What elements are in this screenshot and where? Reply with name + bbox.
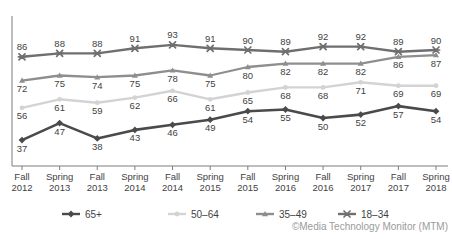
data-value-label: 91 [205, 33, 216, 44]
chart-legend: 65+50–6435–4918–34 [62, 209, 389, 220]
data-value-label: 66 [167, 93, 178, 104]
data-point-marker [18, 54, 25, 60]
data-value-label: 54 [431, 114, 442, 125]
data-point-marker [56, 50, 63, 56]
x-axis-tick-label: 2015 [200, 182, 221, 193]
data-value-label: 72 [17, 83, 28, 94]
data-point-marker [282, 49, 289, 55]
x-axis-tick-label: Spring [121, 171, 148, 182]
data-value-label: 52 [355, 117, 366, 128]
data-value-label: 57 [393, 109, 404, 120]
legend-label: 35–49 [279, 209, 307, 220]
data-value-label: 88 [54, 38, 65, 49]
legend-item-65[interactable]: 65+ [62, 209, 102, 220]
data-point-marker [175, 212, 180, 217]
data-value-label: 71 [355, 85, 366, 96]
data-point-marker [169, 42, 176, 48]
x-axis-tick-label: Fall [165, 171, 180, 182]
data-value-label: 50 [318, 121, 329, 132]
series-65 [19, 103, 440, 144]
legend-label: 50–64 [191, 209, 219, 220]
data-value-label: 86 [393, 59, 404, 70]
data-value-label: 92 [318, 31, 329, 42]
data-value-label: 92 [355, 31, 366, 42]
data-value-label: 65 [243, 95, 254, 106]
data-value-label: 69 [431, 88, 442, 99]
data-value-label: 82 [355, 66, 366, 77]
data-point-marker [319, 44, 326, 50]
x-axis-tick-label: 2015 [237, 182, 258, 193]
x-axis-tick-label: Spring [196, 171, 223, 182]
data-value-label: 89 [393, 36, 404, 47]
x-axis-labels: Fall2012Spring2013Fall2013Spring2014Fall… [11, 171, 449, 193]
data-value-label: 91 [130, 33, 141, 44]
data-value-label: 88 [92, 38, 103, 49]
series-35-49 [19, 52, 439, 83]
x-axis-tick-label: Spring [347, 171, 374, 182]
data-value-label: 49 [205, 122, 216, 133]
legend-item-50-64[interactable]: 50–64 [168, 209, 219, 220]
data-value-label: 38 [92, 141, 103, 152]
data-value-label: 54 [243, 114, 254, 125]
x-axis-tick-label: 2013 [49, 182, 70, 193]
data-value-label: 78 [167, 73, 178, 84]
x-axis-tick-label: 2014 [124, 182, 145, 193]
legend-item-35-49[interactable]: 35–49 [256, 209, 307, 220]
data-value-label: 87 [431, 58, 442, 69]
data-value-label: 43 [130, 132, 141, 143]
data-value-label: 68 [280, 90, 291, 101]
data-point-marker [131, 45, 138, 51]
data-value-label: 56 [17, 110, 28, 121]
data-value-label: 86 [17, 41, 28, 52]
data-value-label: 61 [54, 102, 65, 113]
x-axis-tick-label: 2016 [313, 182, 334, 193]
series-line [22, 82, 436, 108]
x-axis-tick-label: Spring [272, 171, 299, 182]
data-value-label: 90 [243, 35, 254, 46]
cut-off-title-sliver [0, 0, 452, 9]
x-axis-tick-label: Fall [90, 171, 105, 182]
data-value-label: 68 [318, 90, 329, 101]
x-axis-tick-label: 2016 [275, 182, 296, 193]
data-value-label: 46 [167, 127, 178, 138]
data-point-marker [94, 50, 101, 56]
data-point-marker [207, 45, 214, 51]
copyright-credit: ©Media Technology Monitor (MTM) [292, 221, 448, 232]
x-axis-tick-label: 2017 [350, 182, 371, 193]
data-value-label: 62 [130, 100, 141, 111]
x-axis-tick-label: Fall [240, 171, 255, 182]
x-axis-tick-label: Fall [315, 171, 330, 182]
series-18-34 [18, 42, 439, 60]
data-value-label: 93 [167, 29, 178, 40]
legend-label: 18–34 [361, 209, 389, 220]
chart-container: 5661596266616568687169697275747578758082… [0, 0, 452, 239]
data-value-label: 89 [280, 36, 291, 47]
x-axis-tick-label: Fall [391, 171, 406, 182]
data-value-label: 75 [54, 78, 65, 89]
data-point-marker [357, 44, 364, 50]
series-line [22, 55, 436, 81]
data-point-marker [68, 211, 75, 218]
legend-item-18-34[interactable]: 18–34 [338, 209, 389, 220]
data-value-label: 69 [393, 88, 404, 99]
data-value-label: 74 [92, 80, 103, 91]
legend-label: 65+ [85, 209, 102, 220]
data-value-label: 82 [280, 66, 291, 77]
data-value-label: 75 [130, 78, 141, 89]
series-50-64 [20, 80, 439, 110]
data-value-label: 90 [431, 35, 442, 46]
line-chart: 5661596266616568687169697275747578758082… [0, 0, 452, 239]
data-value-label: 82 [318, 66, 329, 77]
x-axis-tick-label: 2012 [11, 182, 32, 193]
x-axis-tick-label: 2013 [87, 182, 108, 193]
x-axis-tick-label: 2014 [162, 182, 183, 193]
data-value-label: 37 [17, 143, 28, 154]
x-axis-tick-label: Spring [46, 171, 73, 182]
data-point-marker [244, 47, 251, 53]
data-value-label: 61 [205, 102, 216, 113]
x-axis-tick-label: 2018 [425, 182, 446, 193]
data-value-label: 80 [243, 70, 254, 81]
data-point-marker [343, 211, 350, 217]
series-line [22, 106, 436, 140]
data-value-label: 55 [280, 112, 291, 123]
